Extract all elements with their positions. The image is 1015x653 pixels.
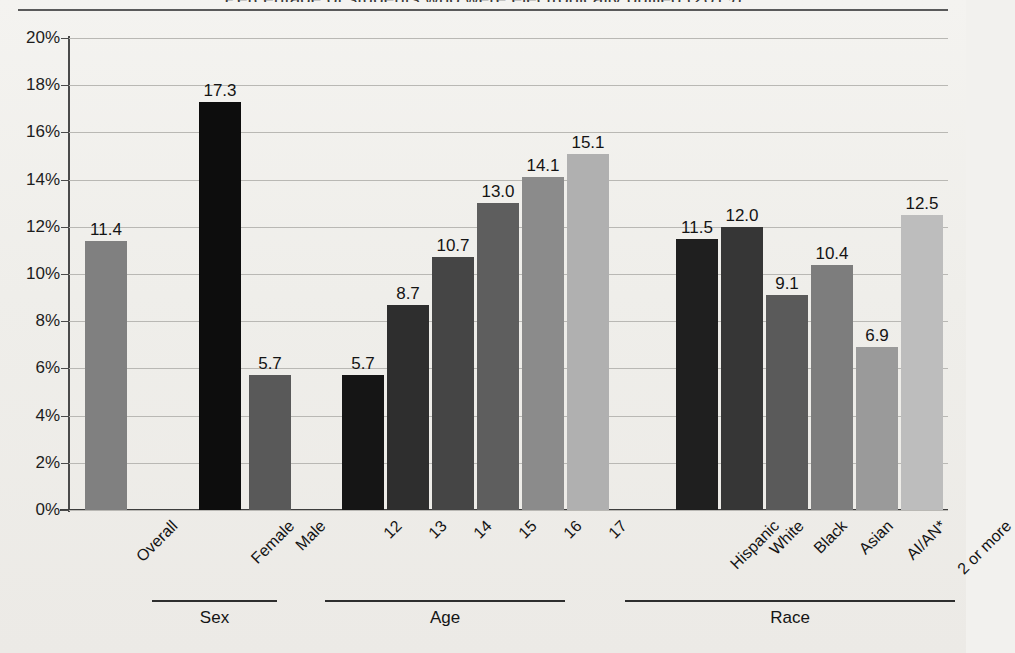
bar[interactable]: 12.5 <box>901 215 943 510</box>
group-band: Age <box>325 600 565 628</box>
y-axis-tick-label: 18% <box>8 75 60 95</box>
group-label: Age <box>325 608 565 628</box>
bar[interactable]: 12.0 <box>721 227 763 510</box>
y-axis-tick-label: 12% <box>8 217 60 237</box>
group-band: Race <box>625 600 955 628</box>
group-rule <box>325 600 565 602</box>
bar[interactable]: 9.1 <box>766 295 808 510</box>
group-label: Race <box>625 608 955 628</box>
bar[interactable]: 5.7 <box>342 375 384 510</box>
bar-value-label: 12.0 <box>725 207 758 224</box>
bar-value-label: 9.1 <box>775 275 799 292</box>
x-axis-label: Male <box>292 517 329 554</box>
x-axis-label: 13 <box>425 517 450 542</box>
x-axis-label: Overall <box>133 517 182 566</box>
group-rule <box>625 600 955 602</box>
x-axis-label: 2 or more <box>954 517 1015 578</box>
x-axis-label: Asian <box>856 517 897 558</box>
x-axis-label: 17 <box>605 517 630 542</box>
y-axis-tick-labels: 20%18%16%14%12%10%8%6%4%2%0% <box>0 38 60 510</box>
bar[interactable]: 11.5 <box>676 239 718 510</box>
bar-value-label: 8.7 <box>396 285 420 302</box>
bar-value-label: 6.9 <box>865 327 889 344</box>
group-bands: SexAgeRace <box>0 600 966 648</box>
group-band: Sex <box>152 600 277 628</box>
x-axis-label: 15 <box>515 517 540 542</box>
bar[interactable]: 8.7 <box>387 305 429 510</box>
bar-value-label: 11.5 <box>681 219 713 236</box>
x-axis-label: Female <box>248 517 298 567</box>
y-axis-tick-label: 8% <box>8 311 60 331</box>
bar-value-label: 11.4 <box>90 221 122 238</box>
group-label: Sex <box>152 608 277 628</box>
group-rule <box>152 600 277 602</box>
x-axis-category-labels: OverallFemaleMale121314151617HispanicWhi… <box>0 511 966 591</box>
bar-value-label: 12.5 <box>905 195 938 212</box>
chart-title-cropped: Percentage of students who were electron… <box>0 0 966 2</box>
bar-value-label: 5.7 <box>258 355 282 372</box>
x-axis-label: 12 <box>380 517 405 542</box>
y-axis-tick-label: 4% <box>8 406 60 426</box>
x-axis-label: AI/AN* <box>903 517 950 564</box>
bar[interactable]: 10.7 <box>432 257 474 510</box>
bar-value-label: 14.1 <box>526 157 559 174</box>
bar[interactable]: 6.9 <box>856 347 898 510</box>
bar[interactable]: 13.0 <box>477 203 519 510</box>
y-axis-tick-label: 10% <box>8 264 60 284</box>
y-axis-tick-label: 2% <box>8 453 60 473</box>
bar-value-label: 15.1 <box>571 134 604 151</box>
y-axis-tick-label: 16% <box>8 122 60 142</box>
bar-value-label: 13.0 <box>481 183 514 200</box>
bar[interactable]: 11.4 <box>85 241 127 510</box>
bar-value-label: 10.7 <box>436 237 469 254</box>
y-axis-tick-label: 14% <box>8 170 60 190</box>
bar[interactable]: 17.3 <box>199 102 241 510</box>
bar[interactable]: 15.1 <box>567 154 609 510</box>
bar[interactable]: 10.4 <box>811 265 853 510</box>
x-axis-label: Black <box>810 517 850 557</box>
bar[interactable]: 5.7 <box>249 375 291 510</box>
bar-value-label: 10.4 <box>815 245 848 262</box>
x-axis-label: 14 <box>470 517 495 542</box>
bar[interactable]: 14.1 <box>522 177 564 510</box>
bar-value-label: 5.7 <box>351 355 375 372</box>
bar-series: 11.417.35.75.78.710.713.014.115.111.512.… <box>68 38 948 510</box>
y-axis-tick-label: 6% <box>8 358 60 378</box>
x-axis-label: 16 <box>560 517 585 542</box>
y-axis-tick-label: 20% <box>8 28 60 48</box>
bar-value-label: 17.3 <box>203 82 236 99</box>
title-underline <box>18 9 948 11</box>
